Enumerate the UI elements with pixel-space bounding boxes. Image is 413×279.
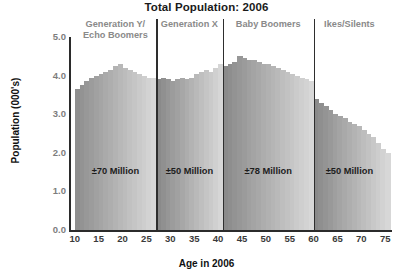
chart-container: Total Population: 2006 Population (000's… xyxy=(0,0,413,279)
y-tick-label: 3.0 xyxy=(53,108,66,119)
bar-series xyxy=(70,37,390,230)
x-tick-label: 45 xyxy=(232,233,252,244)
y-tick-label: 4.0 xyxy=(53,70,66,81)
population-annotation: ±50 Million xyxy=(144,166,234,176)
y-axis-title: Population (000's) xyxy=(10,46,21,196)
plot-area xyxy=(70,37,390,230)
x-tick-label: 70 xyxy=(351,233,371,244)
generation-label: Ikes/Silents xyxy=(304,19,394,30)
x-tick-label: 65 xyxy=(327,233,347,244)
y-tick-label: 2.0 xyxy=(53,147,66,158)
y-tick-label: 5.0 xyxy=(53,31,66,42)
x-tick-label: 20 xyxy=(113,233,133,244)
x-tick-label: 50 xyxy=(256,233,276,244)
generation-label: Generation X xyxy=(144,19,234,30)
generation-divider-line xyxy=(314,19,316,230)
x-axis-tick-labels: 1015202530354045505560657075 xyxy=(0,233,413,249)
x-tick-label: 25 xyxy=(136,233,156,244)
x-tick-label: 10 xyxy=(65,233,85,244)
x-tick-label: 15 xyxy=(89,233,109,244)
generation-divider-line xyxy=(223,19,225,230)
y-tick-label: 1.0 xyxy=(53,185,66,196)
generation-divider-line xyxy=(156,19,158,230)
generation-label: Baby Boomers xyxy=(223,19,313,30)
bar xyxy=(385,153,390,230)
x-tick-label: 75 xyxy=(375,233,395,244)
x-tick-label: 35 xyxy=(184,233,204,244)
x-axis-title: Age in 2006 xyxy=(0,258,413,269)
x-tick-label: 55 xyxy=(280,233,300,244)
x-tick-label: 30 xyxy=(160,233,180,244)
population-annotation: ±50 Million xyxy=(304,166,394,176)
x-tick-label: 40 xyxy=(208,233,228,244)
population-annotation: ±78 Million xyxy=(223,166,313,176)
x-tick-label: 60 xyxy=(304,233,324,244)
